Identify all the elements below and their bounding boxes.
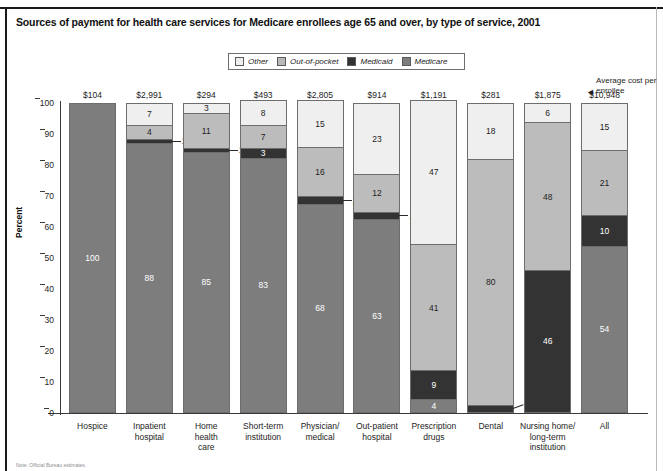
bar-segment-medicare[interactable]: 88 bbox=[126, 143, 173, 413]
bar-segment-value: 18 bbox=[486, 127, 495, 136]
y-axis-tick-mark bbox=[40, 160, 45, 161]
bar-segment-value: 23 bbox=[372, 135, 381, 144]
y-axis-tick-label: 90 bbox=[45, 129, 60, 139]
plot-area: 0102030405060708090100$104100Hospice$2,9… bbox=[60, 103, 637, 413]
bar-segment-out-of-pocket[interactable]: 80 bbox=[467, 159, 514, 405]
bar-segment-out-of-pocket[interactable]: 21 bbox=[581, 150, 628, 215]
bar-cost-label: $2,805 bbox=[307, 90, 333, 100]
bar-segment-out-of-pocket[interactable]: 16 bbox=[297, 147, 344, 197]
bar-segment-value: 100 bbox=[85, 254, 99, 263]
bar-segment-value: 16 bbox=[315, 168, 324, 177]
bar-segment-medicaid[interactable]: 22 bbox=[353, 212, 400, 219]
bar-cost-label: $1,875 bbox=[535, 90, 561, 100]
bar-stack: 100 bbox=[69, 103, 116, 413]
bar-segment-medicare[interactable]: 4 bbox=[410, 399, 457, 413]
y-axis-tick-label: 80 bbox=[45, 160, 60, 170]
y-axis-tick-label: 20 bbox=[45, 346, 60, 356]
category-label-line: care bbox=[173, 442, 239, 453]
frame-top-rule bbox=[0, 7, 663, 9]
chart-note: Note: Official Bureau estimates. bbox=[16, 462, 646, 470]
callout-leader-line bbox=[513, 405, 524, 410]
bar-segment-other[interactable]: 3 bbox=[183, 103, 230, 113]
bar-segment-out-of-pocket[interactable]: 4 bbox=[126, 125, 173, 138]
bar-segment-medicare[interactable]: 68 bbox=[297, 204, 344, 413]
bar-stack: 87383 bbox=[240, 100, 287, 413]
bar-segment-medicare[interactable]: 100 bbox=[69, 103, 116, 413]
bar-group: $281188011Dental bbox=[467, 103, 514, 413]
bar-segment-medicaid[interactable]: 46 bbox=[524, 270, 571, 413]
bar-segment-medicaid[interactable]: 10 bbox=[581, 215, 628, 247]
bar-segment-other[interactable]: 15 bbox=[297, 100, 344, 147]
bar-segment-other[interactable]: 7 bbox=[126, 103, 173, 125]
bar-segment-other[interactable]: 15 bbox=[581, 103, 628, 150]
bar-segment-medicaid[interactable]: 11 bbox=[467, 405, 514, 413]
bar-segment-other[interactable]: 23 bbox=[353, 103, 400, 174]
bar-group: $2,991741188Inpatienthospital bbox=[126, 103, 173, 413]
y-axis-tick-label: 50 bbox=[45, 253, 60, 263]
bar-segment-out-of-pocket[interactable]: 48 bbox=[524, 122, 571, 270]
bar-group: $2,80515162268Physician/medical bbox=[297, 103, 344, 413]
legend-item-out-of-pocket: Out-of-pocket bbox=[277, 57, 338, 66]
bar-segment-medicare[interactable]: 63 bbox=[353, 219, 400, 413]
bar-segment-medicare[interactable]: 83 bbox=[240, 158, 287, 413]
bar-segment-value: 80 bbox=[486, 278, 495, 287]
bar-segment-value: 85 bbox=[202, 278, 211, 287]
bar-segment-out-of-pocket[interactable]: 12 bbox=[353, 174, 400, 212]
bar-segment-value: 8 bbox=[261, 109, 266, 118]
y-axis-tick-mark bbox=[40, 284, 45, 285]
bar-segment-out-of-pocket[interactable]: 7 bbox=[240, 125, 287, 147]
y-axis-tick-mark bbox=[40, 315, 45, 316]
y-axis-tick-label: 30 bbox=[45, 315, 60, 325]
bar-stack: 188011 bbox=[467, 103, 514, 413]
bar-group: $10,94815211054All bbox=[581, 103, 628, 413]
bar-stack: 15162268 bbox=[297, 100, 344, 413]
y-axis-tick-label: 0 bbox=[49, 408, 60, 418]
callout-leader-line bbox=[343, 200, 352, 201]
legend-item-label: Out-of-pocket bbox=[290, 57, 338, 66]
bar-segment-other[interactable]: 18 bbox=[467, 103, 514, 159]
bar-group: $2943111185Homehealthcare bbox=[183, 103, 230, 413]
bar-cost-label: $1,191 bbox=[421, 90, 447, 100]
bar-segment-other[interactable]: 6 bbox=[524, 103, 571, 122]
bar-cost-label: $104 bbox=[83, 90, 102, 100]
category-label-line: long-term bbox=[515, 432, 581, 443]
bar-segment-medicaid[interactable]: 22 bbox=[297, 196, 344, 203]
bar-stack: 741188 bbox=[126, 103, 173, 413]
bar-segment-medicare[interactable]: 85 bbox=[183, 152, 230, 413]
y-axis-tick-mark bbox=[40, 346, 45, 347]
bar-segment-out-of-pocket[interactable]: 11 bbox=[183, 113, 230, 148]
y-axis-tick-mark bbox=[40, 222, 45, 223]
legend-item-medicare: Medicare bbox=[402, 57, 448, 66]
legend-swatch-icon bbox=[235, 57, 244, 66]
average-cost-annotation: Average cost per enrollee bbox=[596, 76, 660, 95]
y-axis-tick-label: 40 bbox=[45, 284, 60, 294]
bar-segment-medicare[interactable]: 54 bbox=[581, 246, 628, 413]
bar-segment-value: 46 bbox=[543, 337, 552, 346]
bar-group: $1,191474194Prescriptiondrugs bbox=[410, 103, 457, 413]
bar-segment-other[interactable]: 8 bbox=[240, 100, 287, 125]
bar-cost-label: $493 bbox=[254, 90, 273, 100]
legend-item-other: Other bbox=[235, 57, 268, 66]
y-axis-tick-mark bbox=[44, 408, 49, 409]
legend-item-label: Other bbox=[248, 57, 268, 66]
bar-segment-value: 7 bbox=[147, 110, 152, 119]
category-label-line: institution bbox=[515, 442, 581, 453]
frame-left-rule bbox=[5, 7, 7, 471]
bar-group: $1,87564846Nursing home/long-terminstitu… bbox=[524, 103, 571, 413]
y-axis-tick-mark bbox=[35, 98, 40, 99]
bar-segment-value: 54 bbox=[600, 325, 609, 334]
bar-segment-value: 21 bbox=[600, 179, 609, 188]
bar-segment-out-of-pocket[interactable]: 41 bbox=[410, 244, 457, 370]
average-cost-arrow-icon: ◄ bbox=[586, 88, 595, 97]
bar-segment-value: 10 bbox=[600, 227, 609, 236]
bar-segment-other[interactable]: 47 bbox=[410, 100, 457, 244]
y-axis-tick-mark bbox=[40, 191, 45, 192]
y-axis-label: Percent bbox=[14, 207, 24, 238]
legend-swatch-icon bbox=[402, 57, 411, 66]
bar-segment-value: 41 bbox=[429, 304, 438, 313]
bar-group: $104100Hospice bbox=[69, 103, 116, 413]
bar-segment-value: 88 bbox=[145, 274, 154, 283]
bar-segment-medicaid[interactable]: 9 bbox=[410, 370, 457, 398]
bar-segment-medicaid[interactable]: 3 bbox=[240, 148, 287, 158]
y-axis-tick-mark bbox=[40, 129, 45, 130]
